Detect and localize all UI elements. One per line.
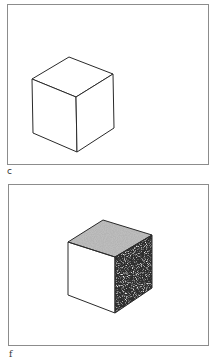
- cube-c: [32, 57, 114, 152]
- diagram-canvas: [0, 0, 215, 361]
- cube-f: [68, 220, 152, 313]
